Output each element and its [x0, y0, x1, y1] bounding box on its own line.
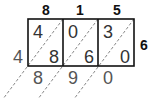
multiplier-digit: 6 — [140, 37, 148, 53]
result-digit: 0 — [103, 68, 113, 88]
cell-tens-digit: 3 — [103, 22, 113, 42]
cell-tens-digit: 4 — [33, 22, 43, 42]
lattice-diagram: 8 1 5 6 4 8 0 6 3 0 4 8 9 0 — [0, 0, 151, 99]
multiplicand-digit: 8 — [42, 2, 50, 18]
cell-ones-digit: 0 — [120, 47, 130, 67]
result-digit: 8 — [33, 68, 43, 88]
cell-ones-digit: 6 — [84, 47, 94, 67]
cell-tens-digit: 0 — [68, 22, 78, 42]
multiplicand-digit: 5 — [113, 2, 121, 18]
result-digit: 4 — [13, 47, 23, 67]
multiplicand-digit: 1 — [76, 2, 84, 18]
lattice-grid — [28, 19, 134, 66]
cell-ones-digit: 8 — [49, 47, 59, 67]
result-digit: 9 — [68, 68, 78, 88]
